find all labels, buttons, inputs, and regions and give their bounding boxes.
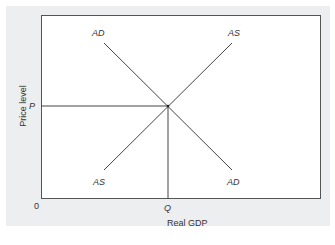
q-label: Q — [164, 204, 171, 213]
equilibrium-point — [167, 105, 170, 108]
as-top-label: AS — [228, 29, 240, 38]
ad-bottom-label: AD — [227, 178, 240, 187]
y-axis-label: Price level — [18, 85, 28, 127]
p-label: P — [29, 102, 35, 111]
ad-top-label: AD — [92, 29, 105, 38]
x-axis-label: Real GDP — [167, 219, 208, 228]
as-bottom-label: AS — [93, 178, 105, 187]
origin-label: 0 — [34, 202, 39, 211]
